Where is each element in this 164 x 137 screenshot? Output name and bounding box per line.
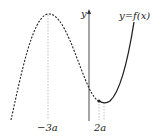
x-label-neg3a: −3a xyxy=(37,122,58,133)
curve-solid-part xyxy=(99,22,134,103)
curve-label: y=f(x) xyxy=(118,10,150,21)
curve-dashed-part xyxy=(11,14,99,120)
x-label-2a: 2a xyxy=(93,122,106,133)
graph-canvas: y y=f(x) −3a 2a xyxy=(0,0,164,137)
y-axis-label: y xyxy=(80,8,87,19)
function-graph: y y=f(x) −3a 2a xyxy=(0,0,164,137)
curve-point xyxy=(97,99,100,102)
y-axis-arrow-icon xyxy=(87,9,91,14)
